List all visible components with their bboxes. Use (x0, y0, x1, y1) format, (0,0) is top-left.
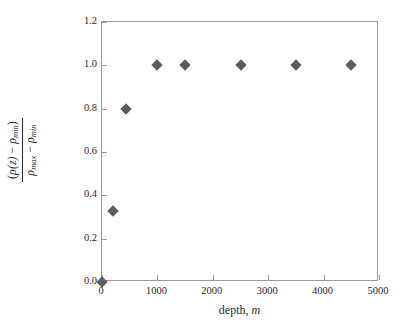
denominator-min-subscript: min (28, 124, 38, 137)
denominator-max-subscript: max (28, 156, 38, 170)
x-axis-title-prefix: depth, (219, 303, 249, 317)
chart-figure: (ρ(z) − ρmin) ρmax − ρmin 0.00.20.40.60.… (0, 0, 410, 333)
numerator-rho-argument: (z) (5, 156, 19, 169)
x-axis-tick-label: 0 (71, 285, 131, 296)
x-axis-tick (213, 275, 214, 280)
x-axis-tick (379, 275, 380, 280)
numerator-minus-sign: − (5, 147, 19, 154)
data-point-marker (235, 60, 246, 71)
x-axis-tick-label: 2000 (182, 285, 242, 296)
x-axis-title: depth, m (101, 303, 378, 317)
y-axis-tick-label: 0.8 (57, 103, 97, 114)
numerator-close-paren: ) (5, 121, 19, 125)
y-axis-denominator: ρmax − ρmin (23, 121, 38, 178)
y-axis-tick (102, 65, 107, 66)
data-point-marker (346, 60, 357, 71)
x-axis-tick-labels: 010002000300040005000 (101, 285, 378, 301)
x-axis-tick (268, 275, 269, 280)
y-axis-tick (102, 239, 107, 240)
plot-area (102, 22, 377, 280)
data-point-marker (179, 60, 190, 71)
y-axis-tick-label: 0.4 (57, 189, 97, 200)
y-axis-tick-label: 1.2 (57, 16, 97, 27)
numerator-open-paren: ( (5, 175, 19, 179)
denominator-rho2-symbol: ρ (23, 137, 37, 143)
y-axis-tick-labels: 0.00.20.40.60.81.01.2 (57, 21, 97, 281)
x-axis-tick-label: 4000 (293, 285, 353, 296)
y-axis-tick (102, 195, 107, 196)
data-point-marker (152, 60, 163, 71)
data-point-marker (290, 60, 301, 71)
x-axis-tick-label: 3000 (237, 285, 297, 296)
y-axis-tick (102, 22, 107, 23)
denominator-minus-sign: − (23, 146, 37, 153)
y-axis-numerator: (ρ(z) − ρmin) (6, 118, 21, 182)
y-axis-tick (102, 109, 107, 110)
x-axis-tick-label: 1000 (126, 285, 186, 296)
plot-frame (101, 21, 378, 281)
x-axis-tick-label: 5000 (348, 285, 408, 296)
numerator-min-subscript: min (10, 125, 20, 138)
y-axis-tick-label: 0.2 (57, 233, 97, 244)
y-axis-fraction: (ρ(z) − ρmin) ρmax − ρmin (6, 118, 38, 182)
y-axis-tick-label: 0.6 (57, 146, 97, 157)
data-point-marker (121, 103, 132, 114)
y-axis-tick (102, 152, 107, 153)
numerator-rho2-symbol: ρ (5, 138, 19, 144)
data-point-marker (107, 205, 118, 216)
numerator-rho-symbol: ρ (5, 169, 19, 175)
denominator-rho-symbol: ρ (23, 170, 37, 176)
x-axis-tick (324, 275, 325, 280)
y-axis-title: (ρ(z) − ρmin) ρmax − ρmin (0, 90, 44, 210)
x-axis-tick (157, 275, 158, 280)
x-axis-title-variable: m (252, 303, 261, 317)
y-axis-tick-label: 1.0 (57, 59, 97, 70)
